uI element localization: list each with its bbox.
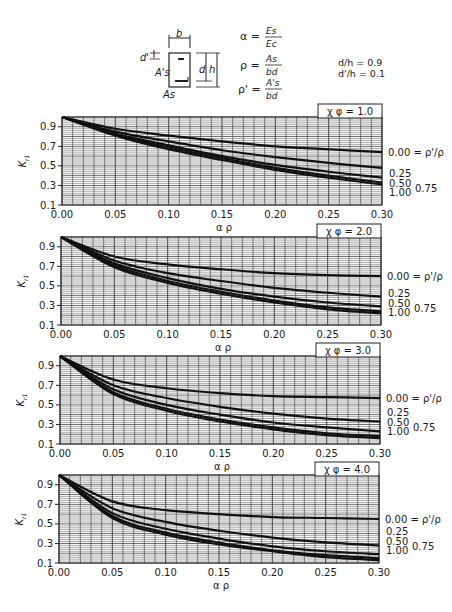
x-axis-label: α ρ	[216, 222, 232, 233]
grid	[60, 356, 380, 444]
x-tick-label: 0.05	[104, 209, 126, 220]
x-tick-label: 0.30	[370, 329, 392, 340]
curve-label-1.00: 1.00	[387, 426, 409, 437]
x-tick-label: 0.10	[156, 448, 178, 459]
chart-panel-3: 0.90.70.50.30.10.000.050.100.150.200.250…	[15, 343, 442, 472]
x-tick-label: 0.05	[103, 329, 125, 340]
y-axis-label: Kr1	[17, 155, 30, 168]
figure: b d' A's As d h α = Es Ec ρ = As bd ρ' =…	[0, 0, 452, 612]
panel-label: χ φ = 3.0	[325, 345, 371, 356]
x-tick-label: 0.05	[102, 448, 124, 459]
y-tick-label: 0.3	[38, 419, 54, 430]
x-tick-label: 0.15	[209, 448, 231, 459]
x-tick-label: 0.05	[101, 567, 123, 578]
x-tick-label: 0.30	[368, 567, 390, 578]
x-tick-label: 0.30	[369, 448, 391, 459]
x-tick-label: 0.20	[261, 567, 283, 578]
chart-panel-1: 0.90.70.50.30.10.000.050.100.150.200.250…	[17, 104, 444, 233]
curve-label-0.00: 0.00 = ρ'/ρ	[388, 147, 444, 158]
x-tick-label: 0.10	[157, 329, 179, 340]
curve-label-0.00: 0.00 = ρ'/ρ	[387, 271, 443, 282]
x-tick-label: 0.25	[318, 209, 340, 220]
curve-label-0.75: 0.75	[413, 422, 435, 433]
curve-label-0.75: 0.75	[412, 541, 434, 552]
curve-label-0.75: 0.75	[415, 183, 437, 194]
x-tick-label: 0.25	[317, 329, 339, 340]
y-tick-label: 0.5	[38, 399, 54, 410]
y-tick-label: 0.5	[37, 518, 53, 529]
y-axis-label: Kr1	[14, 513, 27, 526]
x-tick-label: 0.00	[48, 567, 70, 578]
curve-label-1.00: 1.00	[389, 187, 411, 198]
curve-label-0.75: 0.75	[414, 303, 436, 314]
x-tick-label: 0.15	[210, 329, 232, 340]
curve-label-0.00: 0.00 = ρ'/ρ	[385, 514, 441, 525]
curve-label-1.00: 1.00	[388, 307, 410, 318]
curve-label-0.00: 0.00 = ρ'/ρ	[386, 393, 442, 404]
y-axis-label: Kr1	[15, 394, 28, 407]
y-tick-label: 0.3	[40, 180, 56, 191]
y-tick-label: 0.7	[40, 141, 56, 152]
y-axis-label: Kr1	[16, 275, 29, 288]
curve-label-1.00: 1.00	[386, 545, 408, 556]
x-tick-label: 0.20	[264, 209, 286, 220]
y-tick-label: 0.9	[40, 121, 56, 132]
y-tick-label: 0.7	[38, 380, 54, 391]
y-tick-label: 0.7	[37, 499, 53, 510]
charts-svg: 0.90.70.50.30.10.000.050.100.150.200.250…	[0, 0, 452, 612]
x-tick-label: 0.25	[316, 448, 338, 459]
x-tick-label: 0.00	[49, 448, 71, 459]
chart-panels: 0.90.70.50.30.10.000.050.100.150.200.250…	[0, 0, 452, 612]
x-tick-label: 0.00	[51, 209, 73, 220]
x-tick-label: 0.10	[158, 209, 180, 220]
x-axis-label: α ρ	[214, 461, 230, 472]
x-tick-label: 0.30	[371, 209, 393, 220]
panel-label: χ φ = 1.0	[327, 106, 373, 117]
y-tick-label: 0.5	[40, 160, 56, 171]
y-tick-label: 0.5	[39, 280, 55, 291]
x-tick-label: 0.10	[155, 567, 177, 578]
panel-label: χ φ = 4.0	[324, 464, 370, 475]
y-tick-label: 0.9	[39, 241, 55, 252]
chart-panel-4: 0.90.70.50.30.10.000.050.100.150.200.250…	[14, 462, 441, 591]
x-axis-label: α ρ	[213, 580, 229, 591]
chart-panel-2: 0.90.70.50.30.10.000.050.100.150.200.250…	[16, 224, 443, 353]
panel-label: χ φ = 2.0	[326, 226, 372, 237]
x-axis-label: α ρ	[215, 342, 231, 353]
y-tick-label: 0.9	[38, 360, 54, 371]
y-tick-label: 0.7	[39, 261, 55, 272]
x-tick-label: 0.15	[208, 567, 230, 578]
y-tick-label: 0.3	[37, 538, 53, 549]
y-tick-label: 0.9	[37, 479, 53, 490]
x-tick-label: 0.00	[50, 329, 72, 340]
x-tick-label: 0.15	[211, 209, 233, 220]
y-tick-label: 0.3	[39, 300, 55, 311]
x-tick-label: 0.20	[263, 329, 285, 340]
x-tick-label: 0.25	[315, 567, 337, 578]
x-tick-label: 0.20	[262, 448, 284, 459]
